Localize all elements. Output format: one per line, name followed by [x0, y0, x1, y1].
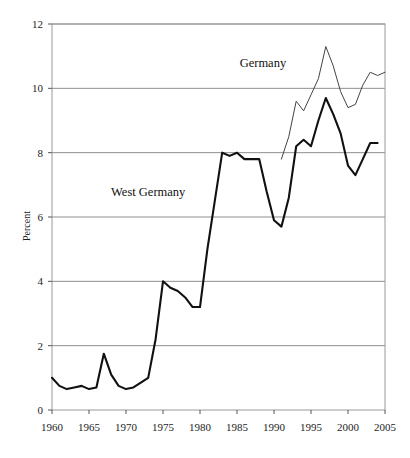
chart-background: [0, 0, 410, 458]
y-tick-label-10: 10: [32, 82, 44, 94]
x-tick-label-1965: 1965: [78, 421, 101, 433]
y-tick-label-12: 12: [32, 18, 43, 30]
y-axis-title: Percent: [21, 211, 32, 241]
annotation-west-germany: West Germany: [111, 185, 186, 199]
chart-container: 024681012 196019651970197519801985199019…: [0, 0, 410, 458]
x-tick-label-1960: 1960: [41, 421, 64, 433]
x-tick-label-1995: 1995: [300, 421, 323, 433]
x-tick-label-2005: 2005: [374, 421, 397, 433]
x-tick-label-1975: 1975: [152, 421, 175, 433]
x-tick-label-1985: 1985: [226, 421, 249, 433]
y-tick-label-8: 8: [38, 147, 44, 159]
x-tick-label-1970: 1970: [115, 421, 138, 433]
y-tick-label-2: 2: [38, 340, 44, 352]
unemployment-rate-line-chart: 024681012 196019651970197519801985199019…: [0, 0, 410, 458]
x-tick-label-2000: 2000: [337, 421, 360, 433]
annotation-germany: Germany: [240, 56, 287, 70]
y-tick-label-0: 0: [38, 404, 44, 416]
x-tick-label-1980: 1980: [189, 421, 212, 433]
y-tick-label-6: 6: [38, 211, 44, 223]
x-tick-label-1990: 1990: [263, 421, 286, 433]
y-tick-label-4: 4: [38, 275, 44, 287]
